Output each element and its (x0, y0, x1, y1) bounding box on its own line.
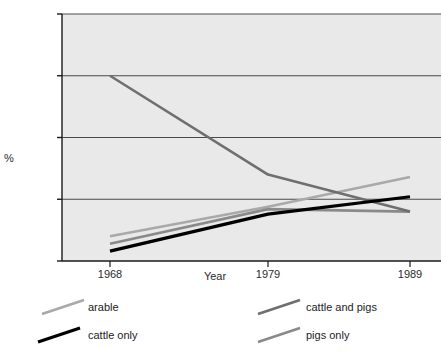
legend-label-pigs-only: pigs only (306, 329, 349, 341)
x-axis-title: Year (190, 270, 240, 282)
chart-legend: arablecattle onlycattle and pigspigs onl… (0, 292, 441, 355)
legend-label-cattle-only: cattle only (88, 329, 138, 341)
x-tick-label: 1968 (98, 268, 122, 280)
x-tick-marks (110, 261, 410, 267)
x-tick-label: 1989 (398, 268, 422, 280)
legend-swatch (256, 326, 302, 344)
legend-label-arable: arable (88, 301, 119, 313)
x-tick-label: 1979 (256, 268, 280, 280)
legend-swatch (256, 298, 302, 316)
legend-label-cattle-and-pigs: cattle and pigs (306, 301, 377, 313)
line-chart: % 0255075100 196819791989 Year arablecat… (0, 0, 441, 355)
legend-swatch (40, 298, 86, 316)
legend-swatch (36, 326, 82, 344)
